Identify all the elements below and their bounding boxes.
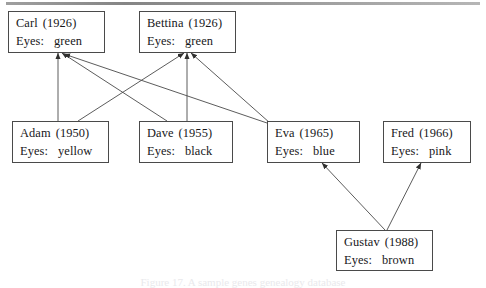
figure-caption: Figure 17. A sample genes genealogy data… [0, 276, 486, 288]
person-name-year: Fred(1966) [391, 125, 463, 143]
person-name-year: Adam(1950) [20, 125, 101, 143]
eyes-value: green [54, 34, 82, 48]
edge-adam-bettina [78, 53, 184, 121]
person-name: Carl [16, 16, 38, 30]
eyes-label: Eyes: [344, 253, 372, 267]
person-eyes-row: Eyes:pink [391, 143, 463, 161]
person-name-year: Eva(1965) [275, 125, 352, 143]
edge-eva-carl [64, 54, 270, 124]
person-name: Dave [147, 126, 174, 140]
person-name: Adam [20, 126, 51, 140]
person-eyes-row: Eyes:blue [275, 143, 352, 161]
eyes-value: pink [429, 144, 451, 158]
person-eyes-row: Eyes:green [16, 33, 97, 51]
person-name: Gustav [344, 235, 380, 249]
person-year: (1950) [56, 126, 90, 140]
person-year: (1965) [300, 126, 334, 140]
person-node-adam[interactable]: Adam(1950)Eyes:yellow [12, 121, 109, 163]
eyes-label: Eyes: [16, 34, 44, 48]
edge-gustav-eva [322, 163, 385, 230]
eyes-label: Eyes: [391, 144, 419, 158]
edge-dave-carl [62, 53, 167, 121]
person-year: (1926) [43, 16, 77, 30]
person-node-dave[interactable]: Dave(1955)Eyes:black [139, 121, 233, 163]
eyes-value: yellow [58, 144, 92, 158]
person-eyes-row: Eyes:black [147, 143, 225, 161]
person-name-year: Gustav(1988) [344, 234, 425, 252]
person-year: (1955) [179, 126, 213, 140]
eyes-value: blue [313, 144, 335, 158]
person-node-eva[interactable]: Eva(1965)Eyes:blue [267, 121, 360, 163]
person-eyes-row: Eyes:yellow [20, 143, 101, 161]
person-name-year: Carl(1926) [16, 15, 97, 33]
edge-eva-bettina [191, 53, 270, 123]
person-year: (1988) [385, 235, 419, 249]
person-name: Bettina [147, 16, 184, 30]
person-year: (1926) [189, 16, 223, 30]
person-node-fred[interactable]: Fred(1966)Eyes:pink [383, 121, 471, 163]
eyes-value: brown [382, 253, 414, 267]
person-year: (1966) [419, 126, 453, 140]
person-eyes-row: Eyes:green [147, 33, 228, 51]
person-name-year: Bettina(1926) [147, 15, 228, 33]
eyes-label: Eyes: [147, 144, 175, 158]
genealogy-diagram: Carl(1926)Eyes:greenBettina(1926)Eyes:gr… [0, 0, 486, 288]
person-node-carl[interactable]: Carl(1926)Eyes:green [8, 11, 105, 53]
eyes-label: Eyes: [275, 144, 303, 158]
person-name: Fred [391, 126, 414, 140]
edge-gustav-fred [387, 163, 421, 230]
person-node-bettina[interactable]: Bettina(1926)Eyes:green [139, 11, 236, 53]
eyes-value: black [185, 144, 212, 158]
person-eyes-row: Eyes:brown [344, 252, 425, 270]
page-top-rule [6, 2, 480, 5]
eyes-value: green [185, 34, 213, 48]
eyes-label: Eyes: [20, 144, 48, 158]
person-name-year: Dave(1955) [147, 125, 225, 143]
eyes-label: Eyes: [147, 34, 175, 48]
person-node-gustav[interactable]: Gustav(1988)Eyes:brown [336, 230, 433, 271]
person-name: Eva [275, 126, 295, 140]
